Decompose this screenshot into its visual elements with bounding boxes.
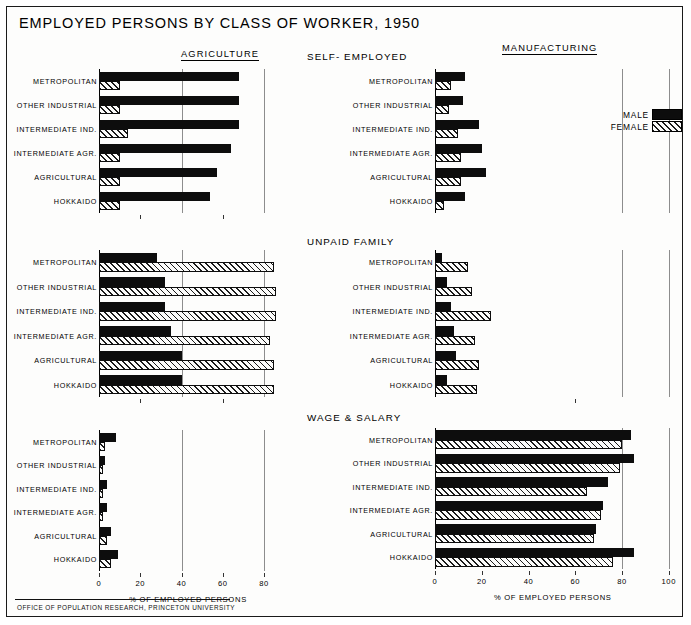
category-label: INTERMEDIATE AGR. <box>11 508 97 517</box>
panel-title-wage-salary: WAGE & SALARY <box>307 412 401 423</box>
category-label: AGRICULTURAL <box>11 173 97 182</box>
bar-male <box>435 72 465 81</box>
panel-title-self-employed: SELF- EMPLOYED <box>307 51 407 62</box>
legend-swatch-male <box>652 109 682 120</box>
bar-male <box>435 548 634 558</box>
legend-label-male: MALE <box>593 110 649 120</box>
bar-male <box>435 253 442 263</box>
panel-title-unpaid-family: UNPAID FAMILY <box>307 236 394 247</box>
category-label: HOKKAIDO <box>343 197 433 206</box>
gridline-80 <box>622 69 623 213</box>
bar-male <box>99 326 171 336</box>
bar-female <box>435 153 461 162</box>
bar-female <box>99 512 103 521</box>
bar-female <box>435 557 613 567</box>
bar-male <box>99 277 165 287</box>
x-axis-caption: % OF EMPLOYED PERSONS <box>494 593 612 602</box>
bar-male <box>99 550 118 559</box>
x-tick-100 <box>669 571 670 575</box>
bar-male <box>99 375 182 385</box>
category-label: OTHER INDUSTRIAL <box>343 101 433 110</box>
x-tick-label-80: 80 <box>617 577 627 586</box>
legend-label-female: FEMALE <box>593 122 649 132</box>
category-label: AGRICULTURAL <box>343 529 433 538</box>
category-label: INTERMEDIATE AGR. <box>11 331 97 340</box>
bar-female <box>99 465 103 474</box>
x-tick-60 <box>223 215 224 219</box>
gridline-80 <box>264 430 265 571</box>
bar-male <box>99 351 182 361</box>
bar-female <box>435 463 620 473</box>
gridline-40 <box>182 430 183 571</box>
bar-female <box>435 385 477 395</box>
bar-female <box>99 153 120 162</box>
bar-female <box>99 336 270 346</box>
x-tick-label-20: 20 <box>477 577 487 586</box>
x-tick-60 <box>575 571 576 575</box>
gridline-80 <box>622 250 623 397</box>
bar-female <box>435 336 475 346</box>
bar-female <box>99 105 120 114</box>
category-label: OTHER INDUSTRIAL <box>343 282 433 291</box>
x-tick-40 <box>529 571 530 575</box>
bar-female <box>99 129 128 138</box>
bar-female <box>435 510 601 520</box>
page-title: EMPLOYED PERSONS BY CLASS OF WORKER, 195… <box>19 15 420 31</box>
bar-male <box>99 456 105 465</box>
bar-female <box>435 360 479 370</box>
category-label: INTERMEDIATE AGR. <box>343 331 433 340</box>
bar-female <box>435 287 472 297</box>
gridline-80 <box>264 69 265 213</box>
bar-female <box>99 489 103 498</box>
x-tick-label-80: 80 <box>259 579 269 588</box>
bar-male <box>435 302 451 312</box>
bar-male <box>99 302 165 312</box>
bar-female <box>99 262 274 272</box>
x-tick-label-0: 0 <box>97 579 102 588</box>
category-label: HOKKAIDO <box>11 197 97 206</box>
bar-male <box>435 120 479 129</box>
bar-female <box>435 105 449 114</box>
bar-female <box>435 177 461 186</box>
bar-male <box>435 501 603 511</box>
category-label: METROPOLITAN <box>343 77 433 86</box>
bar-male <box>435 277 447 287</box>
category-label: INTERMEDIATE AGR. <box>343 506 433 515</box>
bar-female <box>435 440 622 450</box>
legend-swatch-female <box>652 121 682 132</box>
column-header-agriculture: AGRICULTURE <box>181 49 259 61</box>
category-label: AGRICULTURAL <box>343 173 433 182</box>
category-label: HOKKAIDO <box>11 555 97 564</box>
category-label: AGRICULTURAL <box>11 356 97 365</box>
bar-male <box>99 192 210 201</box>
x-tick-40 <box>182 573 183 577</box>
bar-male <box>435 477 608 487</box>
gridline-100 <box>669 428 670 569</box>
x-tick-0 <box>99 573 100 577</box>
x-tick-60 <box>223 573 224 577</box>
bar-female <box>99 360 274 370</box>
bar-female <box>435 129 458 138</box>
x-tick-80 <box>622 571 623 575</box>
category-label: OTHER INDUSTRIAL <box>11 461 97 470</box>
legend-row-male: MALE <box>593 109 682 120</box>
gridline-80 <box>264 250 265 397</box>
bar-male <box>435 326 454 336</box>
bar-male <box>99 120 239 129</box>
bar-female <box>99 311 276 321</box>
x-tick-20 <box>140 399 141 403</box>
category-label: HOKKAIDO <box>343 553 433 562</box>
x-tick-label-40: 40 <box>524 577 534 586</box>
bar-female <box>99 287 276 297</box>
category-label: HOKKAIDO <box>343 380 433 389</box>
category-label: INTERMEDIATE IND. <box>11 484 97 493</box>
bar-male <box>99 253 157 263</box>
category-label: OTHER INDUSTRIAL <box>11 282 97 291</box>
bar-male <box>435 144 482 153</box>
bar-female <box>99 81 120 90</box>
category-label: AGRICULTURAL <box>11 531 97 540</box>
x-tick-label-100: 100 <box>662 577 676 586</box>
bar-female <box>435 487 587 497</box>
bar-male <box>435 375 447 385</box>
footer-credit: OFFICE OF POPULATION RESEARCH, PRINCETON… <box>17 604 235 611</box>
